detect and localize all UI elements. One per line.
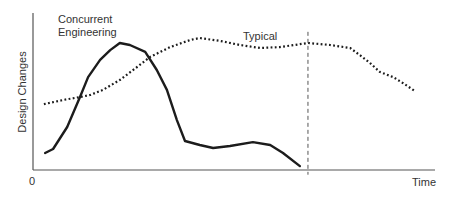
typical-label: Typical [243,30,277,42]
concurrent-label-line1: Concurrent [58,13,112,25]
typical-series-line [44,38,415,104]
origin-label: 0 [29,175,35,187]
concurrent-engineering-series-line [45,43,300,166]
x-axis-label: Time [412,176,436,188]
concurrent-label-line2: Engineering [58,26,117,38]
y-axis-label: Design Changes [16,51,28,133]
design-changes-chart: Concurrent Engineering Typical Time 0 De… [0,0,456,199]
